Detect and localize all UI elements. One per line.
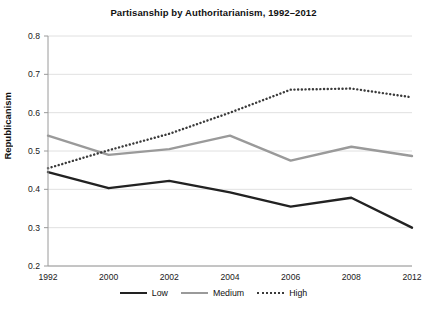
plot-area: 0.20.30.40.50.60.70.8 199220002002200420… [0,0,427,312]
x-tick-label: 2008 [342,272,361,282]
legend-label-low: Low [152,288,168,298]
legend-line-low-icon [120,292,147,294]
legend-line-high-icon [257,292,284,294]
data-series [48,89,412,228]
x-axis-ticks: 1992200020022004200620082012 [38,272,421,282]
legend-item-low[interactable]: Low [120,288,168,298]
x-tick-label: 2000 [99,272,118,282]
y-tick-label: 0.8 [28,31,40,41]
gridlines [48,36,412,266]
legend-item-high[interactable]: High [257,288,307,298]
y-tick-label: 0.7 [28,69,40,79]
x-tick-label: 2012 [402,272,421,282]
y-tick-label: 0.4 [28,184,40,194]
series-line-high [48,89,412,169]
legend-label-medium: Medium [213,288,244,298]
legend-line-medium-icon [181,292,208,294]
legend-label-high: High [289,288,307,298]
x-tick-label: 2004 [220,272,239,282]
series-line-medium [48,136,412,161]
y-tick-label: 0.5 [28,146,40,156]
legend-item-medium[interactable]: Medium [181,288,244,298]
series-line-low [48,172,412,228]
chart-legend: Low Medium High [0,288,427,298]
y-axis-ticks: 0.20.30.40.50.60.70.8 [28,31,48,271]
y-tick-label: 0.3 [28,223,40,233]
x-tick-label: 1992 [38,272,57,282]
y-tick-label: 0.2 [28,261,40,271]
x-tick-label: 2002 [160,272,179,282]
x-tick-label: 2006 [281,272,300,282]
chart-container: Partisanship by Authoritarianism, 1992–2… [0,0,427,312]
y-tick-label: 0.6 [28,108,40,118]
